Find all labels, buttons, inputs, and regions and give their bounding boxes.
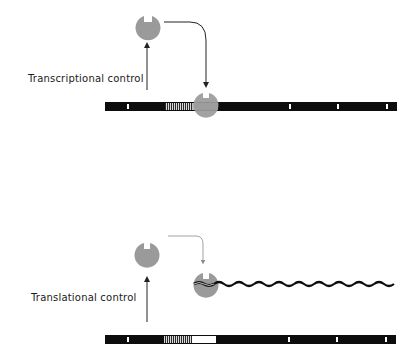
translational-panel bbox=[105, 236, 396, 344]
transcriptional-panel bbox=[105, 16, 397, 118]
transcriptional-control-label: Transcriptional control bbox=[28, 73, 144, 84]
regulatory-protein-icon bbox=[135, 243, 160, 268]
dna-strand-bottom bbox=[105, 335, 396, 344]
binding-arrow-icon bbox=[168, 236, 203, 262]
mrna-wave bbox=[214, 282, 394, 286]
dna-strand-top bbox=[105, 102, 397, 111]
regulatory-protein-icon bbox=[136, 16, 161, 40]
binding-arrow-icon bbox=[164, 22, 206, 85]
translational-control-label: Translational control bbox=[31, 292, 136, 303]
bound-protein-icon bbox=[194, 93, 219, 118]
